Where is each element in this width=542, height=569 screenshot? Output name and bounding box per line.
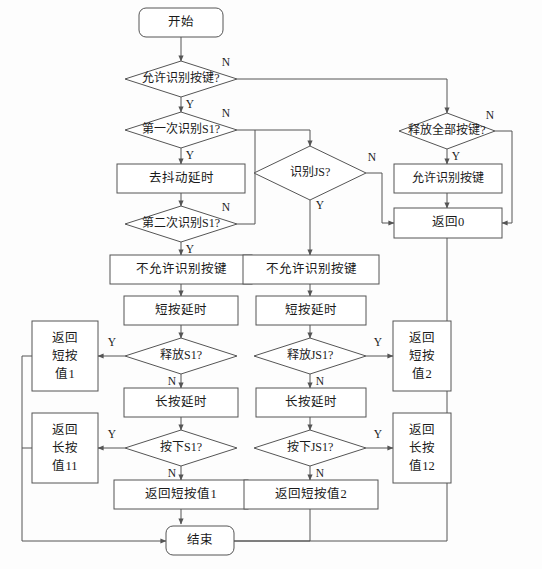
debounce-label: 去抖动延时 <box>149 171 214 185</box>
ret-short1-line3: 值1 <box>55 366 74 381</box>
flowchart-canvas: 开始 允许识别按键? N Y 第一次识别S1? N Y 去抖动延时 第二次识别S… <box>0 0 542 569</box>
node-disallow-detect-left[interactable]: 不允许识别按键 <box>110 255 252 284</box>
label-releases1-no: N <box>168 375 177 387</box>
label-releases1-yes: Y <box>108 336 117 348</box>
long-delay-middle-label: 长按延时 <box>285 395 337 409</box>
start-label: 开始 <box>168 15 194 29</box>
ret-long11-line3: 值11 <box>52 458 77 473</box>
edge-firsts1-no <box>237 130 310 146</box>
press-js1-label: 按下JS1? <box>287 440 334 454</box>
ret-short2-line2: 短按 <box>409 349 435 363</box>
disallow-left-label: 不允许识别按键 <box>136 261 227 276</box>
ret-short1-line1: 返回 <box>52 331 78 345</box>
label-allowdetect-yes: Y <box>186 98 195 110</box>
node-return-long-value11-box[interactable]: 返回 长按 值11 <box>32 413 98 483</box>
node-return-short-value1-box[interactable]: 返回 短按 值1 <box>32 321 98 391</box>
release-js1-label: 释放JS1? <box>287 347 334 362</box>
node-return-zero[interactable]: 返回0 <box>394 208 502 238</box>
node-end[interactable]: 结束 <box>166 526 234 555</box>
label-presss1-no: N <box>168 467 177 479</box>
ret-long11-line1: 返回 <box>52 423 78 437</box>
node-second-s1-decision[interactable]: 第二次识别S1? <box>125 206 237 242</box>
edge-allowdetect-no <box>237 79 447 113</box>
ret-short2-inline-label: 返回短按值2 <box>275 486 346 501</box>
label-releasejs1-no: N <box>316 375 325 387</box>
first-s1-label: 第一次识别S1? <box>142 122 220 136</box>
node-release-s1-decision[interactable]: 释放S1? <box>125 338 237 374</box>
node-long-delay-left[interactable]: 长按延时 <box>124 388 238 417</box>
long-delay-left-label: 长按延时 <box>155 395 207 409</box>
ret-long12-line2: 长按 <box>409 441 435 455</box>
node-short-delay-left[interactable]: 短按延时 <box>124 296 238 325</box>
node-allow-detect-decision[interactable]: 允许识别按键? <box>125 61 237 97</box>
node-disallow-detect-middle[interactable]: 不允许识别按键 <box>243 255 379 284</box>
flowchart-svg: 开始 允许识别按键? N Y 第一次识别S1? N Y 去抖动延时 第二次识别S… <box>0 0 542 569</box>
node-first-s1-decision[interactable]: 第一次识别S1? <box>125 112 237 148</box>
ret-short1-inline-label: 返回短按值1 <box>145 486 216 501</box>
node-debounce-delay[interactable]: 去抖动延时 <box>117 164 245 193</box>
node-release-js1-decision[interactable]: 释放JS1? <box>254 338 366 374</box>
allow-detect-process-label: 允许识别按键 <box>412 170 484 185</box>
label-seconds1-no: N <box>222 201 231 213</box>
node-release-all-decision[interactable]: 释放全部按键? <box>399 113 495 149</box>
detect-js-label: 识别JS? <box>290 165 331 179</box>
label-releasejs1-yes: Y <box>374 336 383 348</box>
node-allow-detect-process[interactable]: 允许识别按键 <box>394 164 502 193</box>
label-seconds1-yes: Y <box>186 243 195 255</box>
label-releaseall-no: N <box>486 109 495 121</box>
node-return-long-value12-box[interactable]: 返回 长按 值12 <box>393 413 451 483</box>
label-firsts1-no: N <box>222 107 231 119</box>
ret-short2-line1: 返回 <box>409 331 435 345</box>
label-firsts1-yes: Y <box>186 149 195 161</box>
node-press-js1-decision[interactable]: 按下JS1? <box>254 430 366 466</box>
label-releaseall-yes: Y <box>452 150 461 162</box>
label-detectjs-no: N <box>368 151 377 163</box>
label-pressjs1-yes: Y <box>374 428 383 440</box>
second-s1-label: 第二次识别S1? <box>142 216 220 230</box>
press-s1-label: 按下S1? <box>160 440 202 454</box>
node-return-short-value2-inline[interactable]: 返回短按值2 <box>244 480 378 509</box>
node-press-s1-decision[interactable]: 按下S1? <box>125 430 237 466</box>
ret-long12-line3: 值12 <box>409 458 435 473</box>
ret-short1-line2: 短按 <box>52 349 78 363</box>
end-label: 结束 <box>187 533 213 547</box>
disallow-middle-label: 不允许识别按键 <box>266 261 357 276</box>
label-presss1-yes: Y <box>108 428 117 440</box>
ret-long12-line1: 返回 <box>409 423 435 437</box>
label-detectjs-yes: Y <box>316 199 325 211</box>
edge-detectjs-no <box>366 173 394 223</box>
node-detect-js-decision[interactable]: 识别JS? <box>254 146 366 200</box>
node-return-short-value1-inline[interactable]: 返回短按值1 <box>114 480 248 509</box>
release-s1-label: 释放S1? <box>160 347 202 362</box>
node-short-delay-middle[interactable]: 短按延时 <box>256 296 366 325</box>
ret-long11-line2: 长按 <box>52 441 78 455</box>
short-delay-left-label: 短按延时 <box>155 303 207 317</box>
label-allowdetect-no: N <box>222 56 231 68</box>
release-all-label: 释放全部按键? <box>408 122 485 137</box>
return-zero-label: 返回0 <box>432 215 464 229</box>
node-long-delay-middle[interactable]: 长按延时 <box>256 388 366 417</box>
ret-short2-line3: 值2 <box>412 366 431 381</box>
allow-detect-label: 允许识别按键? <box>142 70 219 85</box>
short-delay-middle-label: 短按延时 <box>285 303 337 317</box>
node-return-short-value2-box[interactable]: 返回 短按 值2 <box>393 321 451 391</box>
label-pressjs1-no: N <box>316 467 325 479</box>
node-start[interactable]: 开始 <box>139 8 223 37</box>
